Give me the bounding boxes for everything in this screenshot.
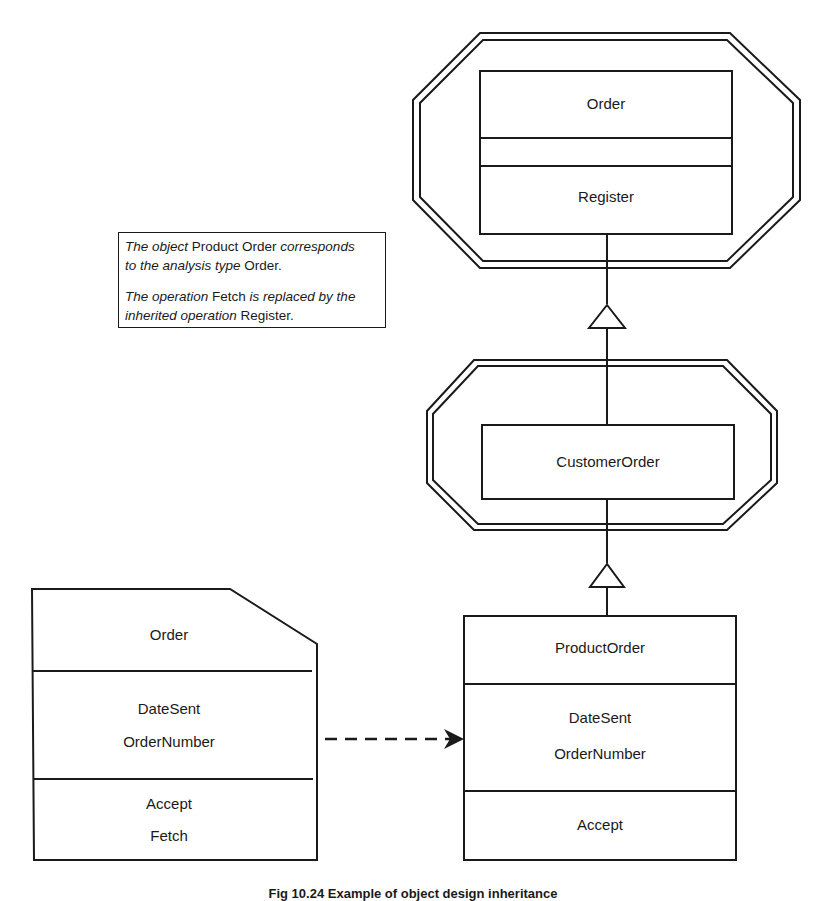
note-text: Product Order	[188, 239, 280, 254]
analysis-op-fetch: Fetch	[34, 827, 304, 845]
note-text: to the analysis type	[125, 258, 241, 273]
top-octagon-outer	[413, 33, 800, 268]
analysis-attr-ordernumber: OrderNumber	[34, 733, 304, 751]
note-text: Register.	[237, 308, 294, 323]
analysis-order-name: Order	[34, 626, 304, 644]
analysis-op-accept: Accept	[34, 795, 304, 813]
note-text: Order.	[241, 258, 282, 273]
note-text: The operation	[125, 289, 208, 304]
top-octagon-inner	[420, 40, 793, 261]
middle-octagon-outer	[427, 360, 777, 530]
note-text: corresponds	[280, 239, 354, 254]
note-text: Fetch	[208, 289, 249, 304]
productorder-attr-ordernumber: OrderNumber	[464, 745, 736, 763]
order-operation-register: Register	[480, 188, 732, 206]
middle-octagon-inner	[433, 366, 771, 524]
generalization-arrow-2	[590, 564, 624, 587]
customerorder-class-name: CustomerOrder	[482, 453, 734, 471]
productorder-class-name: ProductOrder	[464, 639, 736, 657]
note-text: is replaced by the	[250, 289, 356, 304]
generalization-arrow-1	[589, 305, 625, 328]
annotation-note: The object Product Order corresponds to …	[118, 232, 386, 328]
note-text: inherited operation	[125, 308, 237, 323]
productorder-attr-datesent: DateSent	[464, 709, 736, 727]
productorder-op-accept: Accept	[464, 816, 736, 834]
note-text: The object	[125, 239, 188, 254]
figure-caption: Fig 10.24 Example of object design inher…	[0, 886, 826, 901]
analysis-attr-datesent: DateSent	[34, 700, 304, 718]
order-class-name: Order	[480, 95, 732, 113]
